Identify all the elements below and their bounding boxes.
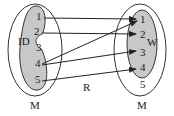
arrow-1-to-1 <box>44 18 136 19</box>
left-element-1: 1 <box>36 10 42 22</box>
right-element-3: 3 <box>140 46 146 58</box>
right-outer-label: M <box>137 99 147 111</box>
relation-diagram: 1 2 3 4 5 ID M 1 2 3 4 5 W M R <box>0 0 174 116</box>
right-element-4: 4 <box>140 61 146 73</box>
left-inner-label: ID <box>18 35 30 47</box>
relation-arrows <box>42 18 137 81</box>
left-outer-label: M <box>30 99 40 111</box>
arrow-2-to-2 <box>42 33 136 34</box>
left-inner-set-id <box>20 6 47 90</box>
right-inner-label: W <box>147 36 158 48</box>
left-element-4: 4 <box>35 57 41 69</box>
left-element-5: 5 <box>35 73 41 85</box>
left-element-3: 3 <box>36 41 42 53</box>
right-element-2: 2 <box>140 28 146 40</box>
relation-label: R <box>83 81 91 93</box>
right-element-5: 5 <box>140 78 146 90</box>
arrow-5-to-4 <box>42 69 136 81</box>
right-element-1: 1 <box>140 13 146 25</box>
left-element-2: 2 <box>34 25 40 37</box>
